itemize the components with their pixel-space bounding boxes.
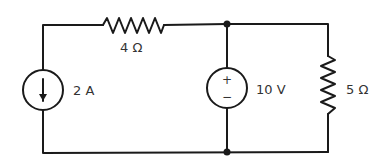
minus-sign: − — [222, 90, 232, 104]
voltage-source: + − — [207, 68, 247, 108]
plus-sign: + — [222, 73, 232, 87]
arrow-down-icon — [39, 94, 47, 101]
resistor-4-ohm — [103, 18, 164, 33]
resistor-4-ohm-label: 4 Ω — [120, 40, 142, 55]
wire-top-right — [164, 24, 328, 56]
resistor-5-ohm — [321, 56, 335, 114]
current-source-label: 2 A — [73, 83, 94, 98]
wire-left-bottom — [43, 110, 328, 153]
voltage-source-label: 10 V — [256, 82, 286, 97]
circuit-diagram: 2 A 4 Ω + − 10 V 5 Ω — [0, 0, 391, 166]
resistor-5-ohm-label: 5 Ω — [346, 82, 368, 97]
wire-left-top — [43, 25, 103, 70]
current-source — [23, 70, 63, 110]
